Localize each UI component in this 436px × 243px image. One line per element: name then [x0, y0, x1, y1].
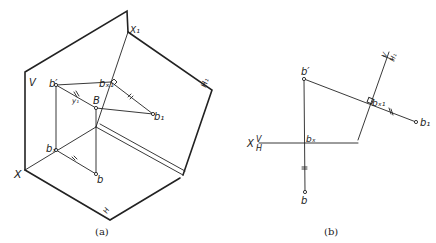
label-bx: bₓ	[306, 134, 316, 144]
label-b1: b₁	[420, 117, 430, 128]
figure-b: X V H V H₁ b′ bₓ₁ b₁ bₓ b (b)	[246, 50, 430, 237]
equal-tick	[74, 156, 77, 159]
point-b-prime	[302, 77, 305, 80]
bx-b-line	[56, 150, 96, 174]
label-V: V	[256, 135, 262, 144]
label-b1: b₁	[154, 111, 164, 122]
label-X: X	[13, 168, 22, 181]
fold-line-1	[96, 127, 183, 175]
label-X1: X₁	[129, 25, 140, 35]
label-H: H	[102, 206, 112, 215]
label-b: b	[301, 195, 307, 206]
label-bx1: bₓ₁	[99, 78, 114, 89]
bprime-b1-line	[304, 79, 416, 122]
label-bx: bₓ	[46, 143, 57, 154]
figure-a: V X X₁ H₁ H b′ bₓ₁ B b₁ bₓ b y₁ (a)	[13, 11, 212, 237]
v-plane-outline	[25, 11, 128, 170]
h1-plane-outline	[128, 32, 212, 175]
label-b: b	[97, 174, 103, 185]
caption-a: (a)	[95, 226, 109, 237]
label-b-prime: b′	[49, 78, 58, 89]
label-bx1: bₓ₁	[372, 98, 386, 108]
point-b	[303, 190, 306, 193]
label-H: H	[256, 144, 262, 153]
caption-b: (b)	[324, 226, 338, 237]
label-X: X	[246, 138, 255, 149]
bx1-b1-line	[111, 82, 153, 114]
label-H1: H₁	[199, 77, 210, 89]
point-B	[94, 106, 97, 109]
label-B: B	[93, 95, 100, 106]
bprime-b-line	[304, 79, 305, 192]
label-b-prime: b′	[301, 66, 310, 77]
x-axis-line	[25, 127, 96, 170]
label-H1-axis: H₁	[388, 52, 398, 63]
label-y1: y₁	[71, 97, 79, 105]
projection-diagram: V X X₁ H₁ H b′ bₓ₁ B b₁ bₓ b y₁ (a)	[0, 0, 436, 243]
B-b1-line	[96, 108, 153, 114]
point-b1	[414, 120, 417, 123]
fold-line-2	[100, 124, 185, 171]
x1-axis-line	[358, 52, 389, 140]
label-V: V	[29, 77, 37, 88]
